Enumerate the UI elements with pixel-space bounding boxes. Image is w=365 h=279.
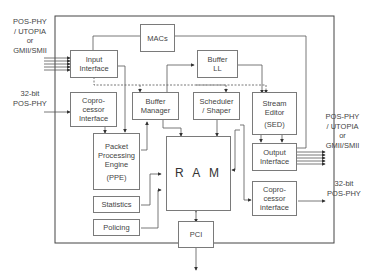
- block-stream-editor-label-3: (SED): [264, 120, 284, 129]
- label-text: 32-bit: [325, 179, 363, 189]
- block-coprocessor-interface-out: Copro- cessor interface: [252, 181, 297, 216]
- label-right-phy-interface: POS-PHY / UTOPIA or GMII/SMII: [320, 112, 365, 150]
- label-text: POS-PHY: [10, 17, 50, 27]
- block-pci: PCI: [178, 221, 214, 248]
- block-ppe-label-2: Processing: [98, 151, 135, 160]
- block-input-interface: Input Interface: [70, 50, 118, 78]
- label-left-phy-interface: POS-PHY / UTOPIA or GMII/SMII: [10, 17, 50, 55]
- label-text: / UTOPIA: [320, 122, 365, 132]
- block-scheduler-label-2: / Shaper: [202, 106, 230, 115]
- block-ram-label: R A M: [175, 169, 222, 178]
- label-text: POS-PHY: [320, 112, 365, 122]
- block-output-interface: Output Interface: [252, 143, 297, 171]
- block-policing: Policing: [93, 219, 140, 236]
- block-statistics-label: Statistics: [101, 200, 131, 209]
- block-stream-editor-label-1: Stream: [262, 99, 286, 108]
- block-buffer-ll: Buffer LL: [197, 50, 238, 78]
- label-text: POS-PHY: [12, 99, 48, 109]
- block-policing-label: Policing: [103, 223, 129, 232]
- block-output-interface-label-2: Interface: [260, 157, 289, 166]
- block-scheduler-label-1: Scheduler: [200, 97, 234, 106]
- block-coprocessor-out-label-3: interface: [260, 203, 289, 212]
- label-text: / UTOPIA: [10, 27, 50, 37]
- label-text: or: [10, 36, 50, 46]
- block-buffer-ll-label-1: Buffer: [208, 55, 228, 64]
- block-input-interface-label-2: Interface: [79, 64, 108, 73]
- label-text: GMII/SMII: [320, 141, 365, 151]
- block-buffer-ll-label-2: LL: [213, 64, 221, 73]
- block-coprocessor-out-label-2: cessor: [263, 194, 285, 203]
- block-coprocessor-interface-in: Copro- cessor Interface: [70, 92, 117, 127]
- label-right-32bit: 32-bit POS-PHY: [325, 179, 363, 198]
- label-text: or: [320, 131, 365, 141]
- block-packet-processing-engine: Packet Processing Engine (PPE): [93, 133, 140, 190]
- block-coprocessor-in-label-3: Interface: [79, 114, 108, 123]
- block-buffer-manager: Buffer Manager: [132, 92, 179, 120]
- block-stream-editor: Stream Editor (SED): [252, 92, 297, 135]
- block-buffer-manager-label-1: Buffer: [146, 97, 166, 106]
- block-coprocessor-out-label-1: Copro-: [263, 185, 286, 194]
- block-pci-label: PCI: [190, 230, 203, 239]
- block-macs-label: MACs: [147, 34, 167, 43]
- block-macs: MACs: [140, 24, 175, 52]
- label-text: GMII/SMII: [10, 46, 50, 56]
- block-coprocessor-in-label-1: Copro-: [82, 96, 105, 105]
- label-left-32bit: 32-bit POS-PHY: [12, 89, 48, 108]
- label-text: 32-bit: [12, 89, 48, 99]
- block-ram: R A M: [166, 136, 231, 211]
- block-ppe-label-1: Packet: [105, 142, 128, 151]
- block-input-interface-label-1: Input: [86, 55, 103, 64]
- block-ppe-label-4: (PPE): [106, 173, 126, 182]
- block-stream-editor-label-2: Editor: [265, 108, 285, 117]
- block-output-interface-label-1: Output: [263, 148, 286, 157]
- block-scheduler-shaper: Scheduler / Shaper: [193, 92, 240, 120]
- block-coprocessor-in-label-2: cessor: [82, 105, 104, 114]
- block-statistics: Statistics: [93, 196, 140, 213]
- block-ppe-label-3: Engine: [105, 160, 128, 169]
- block-buffer-manager-label-2: Manager: [141, 106, 171, 115]
- label-text: POS-PHY: [325, 189, 363, 199]
